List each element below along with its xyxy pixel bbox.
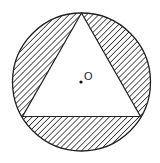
center-label: O [84,70,93,82]
center-point [79,80,82,83]
inscribed-triangle-diagram: O [0,0,160,163]
